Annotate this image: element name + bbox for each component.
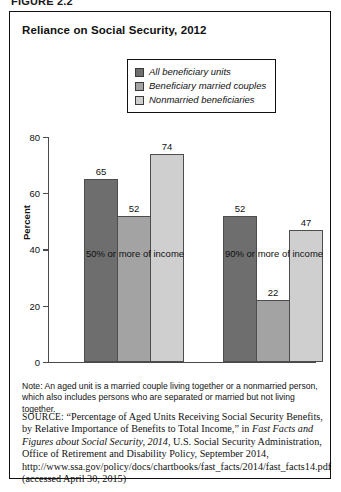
legend-item: Beneficiary married couples xyxy=(135,79,266,93)
legend-item: All beneficiary units xyxy=(135,65,266,79)
bar-value-label: 22 xyxy=(268,287,279,298)
source-label: SOURCE: xyxy=(22,411,64,422)
bar: 52 xyxy=(117,216,151,362)
y-tick-label: 20 xyxy=(29,300,40,311)
legend-swatch-icon xyxy=(135,82,144,91)
bar-value-label: 52 xyxy=(129,203,140,214)
y-tick-label: 60 xyxy=(29,188,40,199)
x-axis-line xyxy=(48,362,316,363)
y-tick-label: 0 xyxy=(35,356,40,367)
y-tick-label: 80 xyxy=(29,132,40,143)
bar: 65 xyxy=(84,179,118,362)
legend-item-label: All beneficiary units xyxy=(149,67,231,77)
y-tick-mark xyxy=(43,306,48,307)
y-tick-label: 40 xyxy=(29,244,40,255)
x-axis-category-label: 90% or more of income xyxy=(225,248,323,259)
chart-source: SOURCE: “Percentage of Aged Units Receiv… xyxy=(22,411,324,485)
y-tick-mark xyxy=(43,193,48,194)
legend-item: Nonmarried beneficiaries xyxy=(135,93,266,107)
y-axis-title: Percent xyxy=(21,205,32,240)
y-tick-mark xyxy=(43,137,48,138)
chart-title: Reliance on Social Security, 2012 xyxy=(22,24,207,36)
legend-item-label: Beneficiary married couples xyxy=(149,81,266,91)
legend-swatch-icon xyxy=(135,96,144,105)
y-axis-line xyxy=(48,137,49,363)
bar: 22 xyxy=(256,300,290,362)
x-axis-category-label: 50% or more of income xyxy=(86,248,184,259)
bar-value-label: 74 xyxy=(162,141,173,152)
chart-legend: All beneficiary units Beneficiary marrie… xyxy=(127,59,276,113)
bar: 52 xyxy=(223,216,257,362)
figure-number: FIGURE 2.2 xyxy=(11,0,73,7)
figure-frame: Reliance on Social Security, 2012 All be… xyxy=(9,11,331,479)
bar-value-label: 47 xyxy=(301,217,312,228)
bar-value-label: 65 xyxy=(96,166,107,177)
y-tick-mark xyxy=(43,249,48,250)
bar-value-label: 52 xyxy=(235,203,246,214)
legend-item-label: Nonmarried beneficiaries xyxy=(149,95,255,105)
y-tick-mark xyxy=(43,362,48,363)
legend-swatch-icon xyxy=(135,68,144,77)
